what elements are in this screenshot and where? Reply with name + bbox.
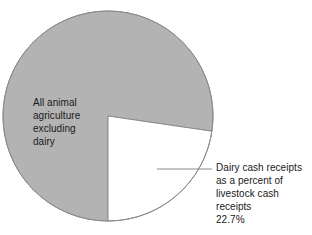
minor-slice-value: 22.7%	[216, 213, 302, 226]
major-slice-label-line-3: excluding	[33, 122, 80, 135]
minor-slice-label-line-2: as a percent of	[216, 174, 302, 187]
major-slice-label-line-1: All animal	[33, 96, 80, 109]
major-slice-label-line-2: agriculture	[33, 109, 80, 122]
minor-slice-label-line-3: livestock cash	[216, 187, 302, 200]
minor-slice-callout-label: Dairy cash receipts as a percent of live…	[216, 161, 302, 226]
minor-slice-label-line-1: Dairy cash receipts	[216, 161, 302, 174]
pie-chart-figure: All animal agriculture excluding dairy D…	[0, 0, 312, 235]
minor-slice-label-line-4: receipts	[216, 200, 302, 213]
major-slice-label: All animal agriculture excluding dairy	[33, 96, 80, 148]
major-slice-label-line-4: dairy	[33, 135, 80, 148]
